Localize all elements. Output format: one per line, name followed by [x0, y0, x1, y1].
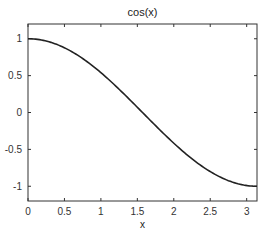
plot-area: 00.511.522.53-1-0.500.51 — [0, 0, 269, 238]
y-tick-label: 1 — [16, 33, 22, 44]
x-tick-label: 2 — [171, 206, 177, 217]
x-tick-label: 3 — [244, 206, 250, 217]
x-tick-label: 0 — [25, 206, 31, 217]
x-tick-label: 0.5 — [57, 206, 71, 217]
y-tick-label: -0.5 — [5, 144, 23, 155]
x-tick-label: 1.5 — [130, 206, 144, 217]
x-tick-label: 1 — [98, 206, 104, 217]
y-tick-label: 0 — [16, 107, 22, 118]
x-tick-label: 2.5 — [203, 206, 217, 217]
y-tick-label: -1 — [13, 181, 22, 192]
y-tick-label: 0.5 — [8, 70, 22, 81]
x-axis-label: x — [28, 219, 257, 230]
